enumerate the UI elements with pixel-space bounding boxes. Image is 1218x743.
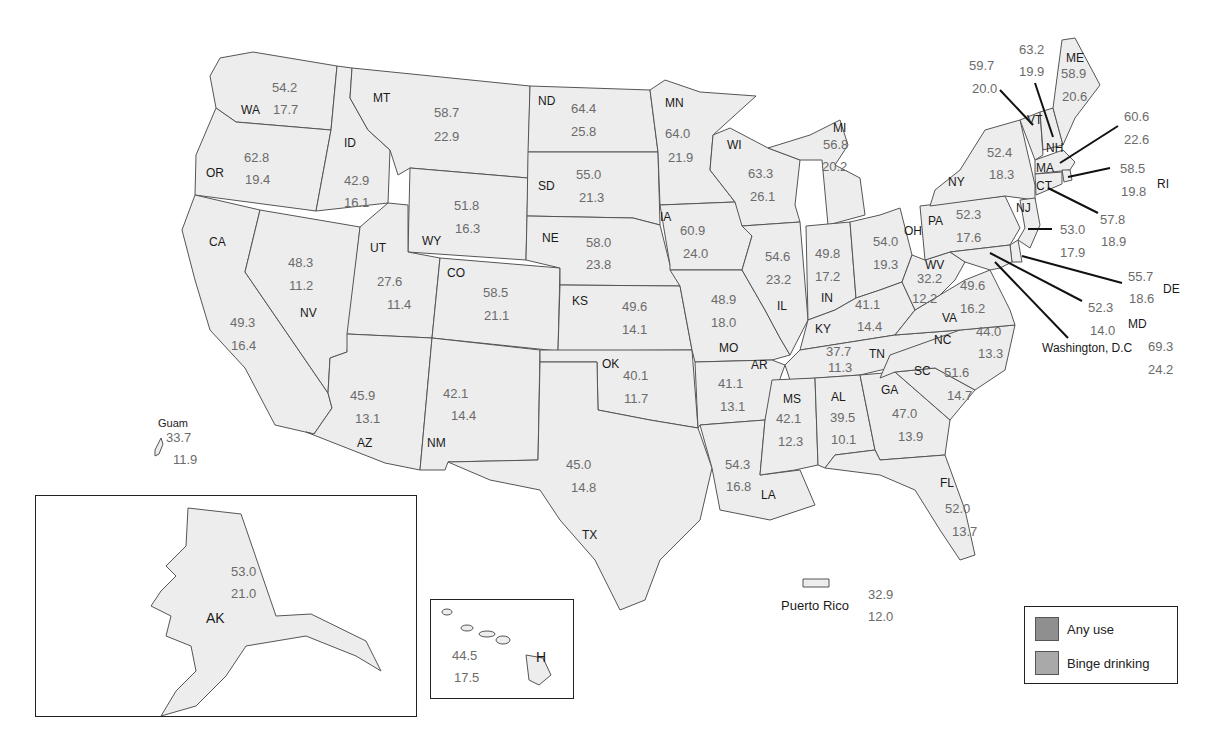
nm-label: NM [427,437,446,449]
id-binge: 16.1 [344,196,369,209]
ky-binge: 14.4 [857,320,882,333]
tx-label: TX [582,529,597,541]
wv-any: 32.2 [917,272,942,285]
ma-any: 60.6 [1124,110,1149,123]
co-binge: 21.1 [484,309,509,322]
az-any: 45.9 [350,389,375,402]
hi-label: H [536,650,546,664]
binge-drinking-swatch [1035,651,1059,675]
al-label: AL [831,391,846,403]
or-any: 62.8 [244,151,269,164]
pr-label: Puerto Rico [781,599,849,612]
legend-label-any-use: Any use [1067,622,1114,637]
ne-any: 58.0 [586,236,611,249]
wa-label: WA [241,104,260,116]
wa-any: 54.2 [272,81,297,94]
mn-any: 64.0 [665,127,690,140]
legend-item-binge: Binge drinking [1035,651,1149,675]
oh-any: 54.0 [873,235,898,248]
de-label: DE [1163,283,1180,295]
ct-any: 57.8 [1100,213,1125,226]
dc-binge: 24.2 [1148,363,1173,376]
guam-binge: 11.9 [173,453,197,466]
az-label: AZ [357,437,372,449]
tn-binge: 11.3 [828,361,852,374]
ny-binge: 18.3 [989,168,1014,181]
ga-binge: 13.9 [898,430,923,443]
state-NM[interactable] [420,338,540,470]
tx-binge: 14.8 [571,481,596,494]
sc-any: 51.6 [944,366,969,379]
guam-shape [155,438,163,456]
il-label: IL [777,300,787,312]
al-binge: 10.1 [831,433,856,446]
id-any: 42.9 [344,174,369,187]
nj-binge: 17.9 [1060,246,1085,259]
va-any: 49.6 [960,279,985,292]
ok-any: 40.1 [623,369,648,382]
de-binge: 18.6 [1129,292,1154,305]
wi-any: 63.3 [748,167,773,180]
nc-binge: 13.3 [978,347,1003,360]
co-label: CO [447,267,465,279]
ut-any: 27.6 [377,275,402,288]
ia-any: 60.9 [680,224,705,237]
pr-any: 32.9 [868,588,893,601]
ar-label: AR [751,359,768,371]
legend: Any use Binge drinking [1024,606,1178,684]
nv-label: NV [300,307,317,319]
mn-label: MN [665,97,684,109]
ks-label: KS [572,295,588,307]
ok-binge: 11.7 [624,392,648,405]
ak-label: AK [206,611,225,625]
al-any: 39.5 [830,411,855,424]
nj-any: 53.0 [1060,223,1085,236]
ne-binge: 23.8 [586,258,611,271]
nj-label: NJ [1016,202,1031,214]
ri-any: 58.5 [1120,162,1145,175]
in-label: IN [821,292,833,304]
mi-label: MI [833,122,846,134]
wy-label: WY [422,235,441,247]
dc-any: 69.3 [1148,340,1173,353]
sc-label: SC [914,365,931,377]
md-any: 52.3 [1088,301,1113,314]
ks-binge: 14.1 [622,323,647,336]
wv-label: WV [925,259,944,271]
vt-label: VT [1027,114,1042,126]
any-use-swatch [1035,617,1059,641]
sc-binge: 14.7 [947,389,972,402]
pr-binge: 12.0 [868,610,893,623]
de-any: 55.7 [1128,270,1153,283]
sd-label: SD [538,180,555,192]
hi-any: 44.5 [452,649,477,662]
ma-binge: 22.6 [1124,133,1149,146]
ca-label: CA [209,236,226,248]
ny-label: NY [948,176,965,188]
ms-label: MS [783,393,801,405]
mt-label: MT [373,92,390,104]
il-any: 54.6 [765,250,790,263]
az-binge: 13.1 [355,412,380,425]
la-label: LA [761,489,776,501]
tx-any: 45.0 [566,458,591,471]
ca-any: 49.3 [230,316,255,329]
la-binge: 16.8 [726,480,751,493]
mt-binge: 22.9 [434,130,459,143]
alaska-shape [36,496,416,716]
tn-any: 37.7 [826,345,851,358]
pa-label: PA [928,215,943,227]
nc-label: NC [934,334,951,346]
id-label: ID [344,137,356,149]
nd-any: 64.4 [571,102,596,115]
state-NY[interactable] [930,120,1035,206]
ky-any: 41.1 [855,298,880,311]
sd-any: 55.0 [576,168,601,181]
ak-any: 53.0 [231,565,256,578]
nv-any: 48.3 [288,256,313,269]
ky-label: KY [815,323,831,335]
tn-label: TN [869,348,885,360]
legend-item-any-use: Any use [1035,617,1114,641]
nd-binge: 25.8 [571,125,596,138]
ar-any: 41.1 [718,377,743,390]
